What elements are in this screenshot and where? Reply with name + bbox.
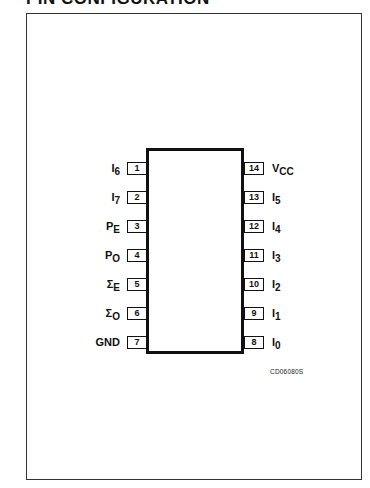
pin-14-box: 14 xyxy=(244,162,264,175)
pin-3-box: 3 xyxy=(127,220,147,233)
pin-13-box: 13 xyxy=(244,191,264,204)
pin-9-box: 9 xyxy=(244,307,264,320)
pin-2-box: 2 xyxy=(127,191,147,204)
pin-8-label: I0 xyxy=(272,336,281,349)
pin-4-label: PO xyxy=(105,249,120,262)
page-title: PIN CONFIGURATION xyxy=(26,0,210,9)
pin-3-label: PE xyxy=(106,220,120,233)
pin-7-box: 7 xyxy=(127,336,147,349)
pin-2-label: I7 xyxy=(111,191,120,204)
figure-code: CD06080S xyxy=(270,368,303,375)
pin-12-box: 12 xyxy=(244,220,264,233)
pin-6-box: 6 xyxy=(127,307,147,320)
pin-1-box: 1 xyxy=(127,162,147,175)
pin-7-label: GND xyxy=(96,336,120,349)
pin-11-label: I3 xyxy=(272,249,281,262)
pin-14-label: VCC xyxy=(272,162,294,175)
pin-8-box: 8 xyxy=(244,336,264,349)
pin-5-box: 5 xyxy=(127,278,147,291)
ic-package-body xyxy=(146,148,244,354)
pin-4-box: 4 xyxy=(127,249,147,262)
pin-12-label: I4 xyxy=(272,220,281,233)
pin-9-label: I1 xyxy=(272,307,281,320)
pin-10-label: I2 xyxy=(272,278,281,291)
pin-5-label: ΣE xyxy=(107,278,120,291)
pin-13-label: I5 xyxy=(272,191,281,204)
pin-11-box: 11 xyxy=(244,249,264,262)
pin-1-label: I6 xyxy=(111,162,120,175)
pin-10-box: 10 xyxy=(244,278,264,291)
pin-6-label: ΣO xyxy=(106,307,120,320)
